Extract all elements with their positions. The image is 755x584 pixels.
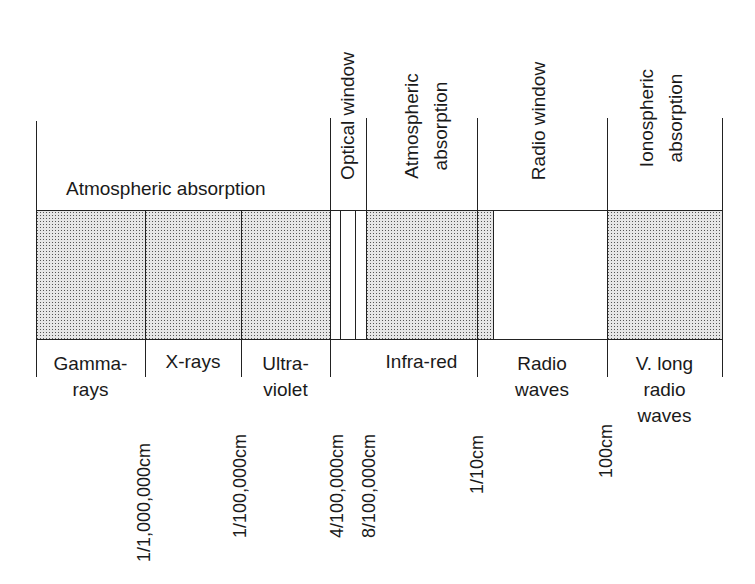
wavelength-xray-uv-text: 1/100,000cm — [230, 434, 250, 538]
label-very-long-radio-waves: V. long radio waves — [607, 351, 722, 430]
band-x-rays — [145, 211, 241, 339]
band-gamma-rays — [36, 211, 145, 339]
label-atmospheric-ir-line1: Atmospheric — [398, 46, 427, 206]
label-vlong-line1: V. long — [607, 351, 722, 377]
label-radio-line2: waves — [477, 377, 607, 403]
wavelength-ir-radio: 1/10cm — [467, 404, 488, 494]
band-top-edge — [36, 210, 723, 211]
optical-window-line-1 — [340, 211, 341, 339]
wavelength-gamma-xray: 1/1,000,000cm — [134, 387, 155, 562]
label-radio-window: Radio window — [528, 50, 550, 192]
wavelength-optical-ir: 8/100,000cm — [359, 383, 380, 538]
label-radio-window-text: Radio window — [528, 62, 549, 180]
label-infrared: Infra-red — [366, 351, 477, 373]
label-gamma-rays: Gamma- rays — [36, 351, 145, 403]
label-radio-line1: Radio — [477, 351, 607, 377]
label-optical-window: Optical window — [337, 36, 359, 196]
label-atmospheric-ir-line2: absorption — [427, 46, 456, 206]
label-ionospheric-line2: absorption — [662, 38, 691, 198]
divider-ir-radio — [477, 118, 478, 377]
band-radio-window — [493, 211, 607, 339]
wavelength-gamma-xray-text: 1/1,000,000cm — [134, 443, 154, 562]
divider-radio-vlong — [607, 118, 608, 377]
wavelength-ir-radio-text: 1/10cm — [467, 435, 487, 494]
wavelength-uv-optical: 4/100,000cm — [327, 383, 348, 538]
label-optical-window-text: Optical window — [337, 52, 358, 180]
band-infrared — [366, 211, 493, 339]
wavelength-radio-vlong-text: 100cm — [596, 424, 616, 478]
label-uv-line2: violet — [241, 377, 330, 403]
label-radio-waves: Radio waves — [477, 351, 607, 403]
label-uv-line1: Ultra- — [241, 351, 330, 377]
label-ionospheric-line1: Ionospheric — [633, 38, 662, 198]
label-ionospheric-absorption: Ionospheric absorption — [633, 38, 690, 198]
label-gamma-line2: rays — [36, 377, 145, 403]
wavelength-optical-ir-text: 8/100,000cm — [359, 434, 379, 538]
label-atmospheric-absorption: Atmospheric absorption — [66, 178, 266, 200]
label-gamma-line1: Gamma- — [36, 351, 145, 377]
divider-left-edge — [36, 121, 37, 377]
optical-window-line-2 — [355, 211, 356, 339]
band-ultraviolet — [241, 211, 330, 339]
divider-right-edge — [722, 118, 723, 377]
wavelength-xray-uv: 1/100,000cm — [230, 383, 251, 538]
band-optical-window — [330, 211, 366, 339]
band-very-long-radio — [607, 211, 722, 339]
wavelength-uv-optical-text: 4/100,000cm — [327, 434, 347, 538]
wavelength-radio-vlong: 100cm — [596, 398, 617, 478]
radio-shading-edge — [493, 211, 494, 339]
label-atmospheric-absorption-ir: Atmospheric absorption — [398, 46, 455, 206]
divider-optical-ir — [366, 118, 367, 339]
band-bottom-edge — [36, 339, 723, 340]
divider-uv-optical — [330, 118, 331, 377]
label-vlong-line3: waves — [607, 403, 722, 429]
label-vlong-line2: radio — [607, 377, 722, 403]
label-ultraviolet: Ultra- violet — [241, 351, 330, 403]
label-x-rays: X-rays — [145, 351, 241, 373]
